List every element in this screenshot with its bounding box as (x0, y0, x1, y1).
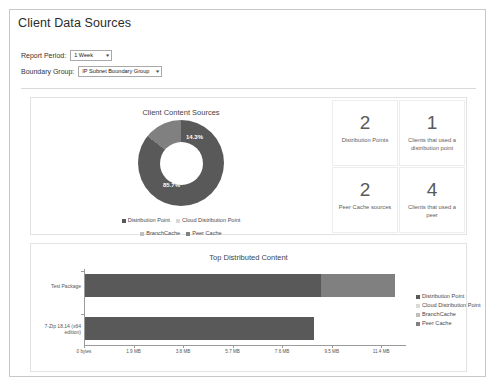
legend-swatch-icon (140, 232, 144, 236)
bar-plot-area: Test Package7-Zip 18.14 (x64 edition)0 b… (84, 269, 406, 345)
x-axis-tick (282, 345, 283, 348)
donut-graphic: 14.3% 85.7% (138, 120, 224, 206)
kpi-value: 4 (400, 180, 464, 200)
kpi-clients-used-distribution-point[interactable]: 1 Clients that used a distribution point (399, 100, 465, 166)
legend-item[interactable]: Distribution Point (416, 293, 468, 299)
bar-row[interactable]: Test Package (85, 274, 395, 297)
overview-panel: Client Content Sources 14.3% 85.7% Distr… (30, 97, 467, 235)
legend-swatch-icon (416, 304, 420, 308)
x-axis-tick-label: 1.9 MB (126, 349, 141, 354)
kpi-grid: 2 Distribution Points 1 Clients that use… (331, 98, 466, 234)
x-axis-tick (332, 345, 333, 348)
donut-legend: Distribution PointCloud Distribution Poi… (31, 212, 331, 238)
chevron-down-icon: ▾ (106, 50, 110, 61)
bar-segment[interactable] (321, 274, 395, 297)
legend-item[interactable]: Cloud Distribution Point (176, 216, 240, 225)
x-axis (84, 345, 406, 346)
kpi-distribution-points[interactable]: 2 Distribution Points (332, 100, 398, 166)
legend-label: Cloud Distribution Point (182, 217, 240, 223)
bar-chart-title: Top Distributed Content (31, 253, 466, 262)
legend-label: Cloud Distribution Point (422, 302, 480, 308)
donut-slice-label-peer-cache: 14.3% (186, 134, 203, 140)
donut-chart-title: Client Content Sources (31, 108, 331, 117)
legend-label: BranchCache (422, 311, 456, 317)
bar-chart-legend: Distribution PointCloud Distribution Poi… (416, 293, 468, 329)
legend-label: Peer Cache (192, 230, 222, 236)
chevron-down-icon: ▾ (156, 66, 160, 77)
legend-swatch-icon (416, 295, 420, 299)
kpi-label: Clients that used a distribution point (400, 133, 464, 152)
report-frame: Client Data Sources Report Period: 1 Wee… (9, 9, 486, 377)
kpi-label: Distribution Points (333, 133, 397, 144)
legend-item[interactable]: Peer Cache (186, 229, 222, 238)
x-axis-tick (84, 345, 85, 348)
y-axis-tick (81, 314, 84, 315)
legend-item[interactable]: BranchCache (416, 311, 468, 317)
legend-item[interactable]: Cloud Distribution Point (416, 302, 468, 308)
top-distributed-content-chart: Top Distributed Content Test Package7-Zi… (30, 243, 467, 372)
boundary-group-value: IP Subnet Boundary Group (82, 66, 149, 77)
legend-swatch-icon (176, 219, 180, 223)
x-axis-tick-label: 3.8 MB (176, 349, 191, 354)
kpi-value: 2 (333, 180, 397, 200)
legend-label: Distribution Point (422, 293, 464, 299)
bar-segment[interactable] (85, 317, 314, 340)
legend-swatch-icon (416, 322, 420, 326)
x-axis-tick-label: 11.4 MB (373, 349, 390, 354)
bar-row[interactable]: 7-Zip 18.14 (x64 edition) (85, 317, 314, 340)
x-axis-tick (183, 345, 184, 348)
report-period-select[interactable]: 1 Week ▾ (70, 50, 112, 61)
kpi-label: Clients that used a peer (400, 200, 464, 219)
client-content-sources-chart: Client Content Sources 14.3% 85.7% Distr… (31, 98, 331, 234)
filter-boundary-group: Boundary Group: IP Subnet Boundary Group… (21, 65, 476, 78)
x-axis-tick-label: 7.6 MB (275, 349, 290, 354)
kpi-peer-cache-sources[interactable]: 2 Peer Cache sources (332, 167, 398, 233)
x-axis-tick (233, 345, 234, 348)
kpi-label: Peer Cache sources (333, 200, 397, 211)
report-period-value: 1 Week (74, 50, 93, 61)
legend-swatch-icon (416, 313, 420, 317)
x-axis-tick (134, 345, 135, 348)
legend-swatch-icon (186, 232, 190, 236)
legend-item[interactable]: BranchCache (140, 229, 180, 238)
legend-item[interactable]: Peer Cache (416, 320, 468, 326)
bar-category-label: 7-Zip 18.14 (x64 edition) (33, 323, 81, 335)
y-axis-tick (81, 271, 84, 272)
legend-label: Distribution Point (128, 217, 170, 223)
x-axis-tick-label: 0 bytes (77, 349, 92, 354)
filter-divider (21, 88, 476, 89)
filter-bar: Report Period: 1 Week ▾ Boundary Group: … (21, 49, 476, 81)
boundary-group-select[interactable]: IP Subnet Boundary Group ▾ (78, 66, 162, 77)
x-axis-tick (381, 345, 382, 348)
x-axis-tick-label: 9.5 MB (324, 349, 339, 354)
donut-hole (160, 142, 203, 185)
x-axis-tick-label: 5.7 MB (225, 349, 240, 354)
bar-segment[interactable] (85, 274, 321, 297)
legend-item[interactable]: Distribution Point (122, 216, 170, 225)
legend-swatch-icon (122, 219, 126, 223)
kpi-clients-used-peer[interactable]: 4 Clients that used a peer (399, 167, 465, 233)
legend-label: BranchCache (146, 230, 180, 236)
filter-report-period: Report Period: 1 Week ▾ (21, 49, 476, 62)
boundary-group-label: Boundary Group: (21, 68, 74, 75)
donut-slice-label-distribution-point: 85.7% (163, 182, 180, 188)
kpi-value: 1 (400, 113, 464, 133)
bar-category-label: Test Package (33, 283, 81, 289)
kpi-value: 2 (333, 113, 397, 133)
report-period-label: Report Period: (21, 52, 66, 59)
legend-label: Peer Cache (422, 320, 452, 326)
page-title: Client Data Sources (18, 16, 131, 30)
